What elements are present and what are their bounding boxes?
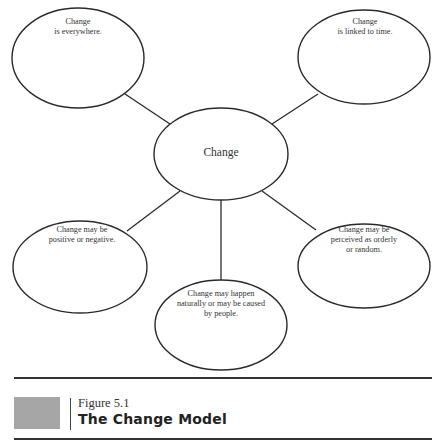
node-top-left-text: Change is everywhere. xyxy=(28,17,128,37)
node-bottom-right-text: Change may be perceived as orderly or ra… xyxy=(309,225,419,255)
connector-top-right xyxy=(272,94,318,124)
caption-top-rule xyxy=(14,377,432,379)
node-bottom-center-text: Change may happen naturally or may be ca… xyxy=(161,289,281,319)
center-node-label: Change xyxy=(171,146,271,158)
node-bottom-left-text: Change may be positive or negative. xyxy=(22,225,142,245)
figure-title: The Change Model xyxy=(78,411,227,427)
caption-divider xyxy=(70,398,71,430)
figure-number: Figure 5.1 xyxy=(78,396,129,411)
caption-bottom-rule xyxy=(14,438,432,440)
caption-gray-swatch xyxy=(14,397,60,429)
change-model-diagram xyxy=(0,0,442,448)
connector-bottom-right xyxy=(262,191,316,230)
connector-top-left xyxy=(125,94,170,124)
node-top-right-text: Change is linked to time. xyxy=(310,17,420,37)
